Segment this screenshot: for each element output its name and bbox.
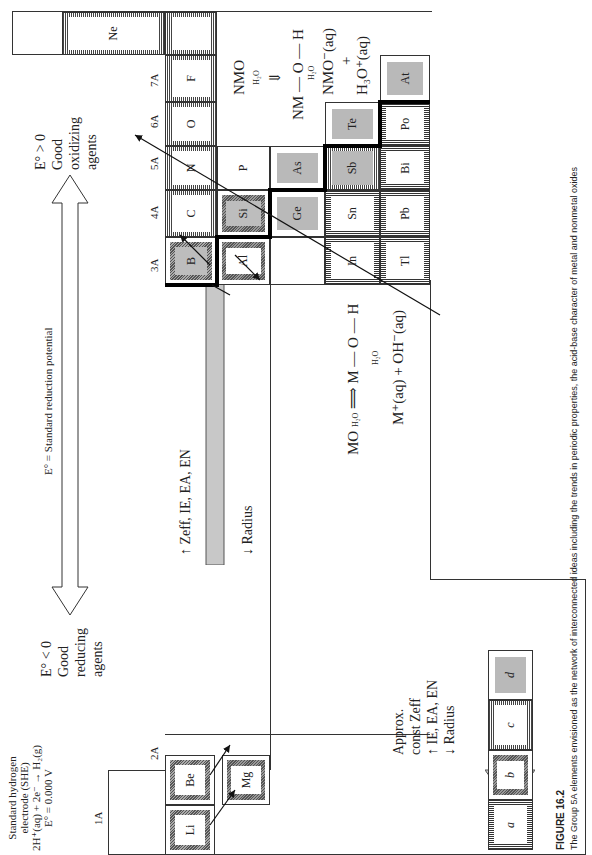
legend-c-text: c — [503, 722, 517, 727]
element-sn-symbol: Sn — [345, 207, 360, 220]
element-mg-symbol: Mg — [239, 772, 254, 789]
element-ne-symbol: Ne — [106, 27, 121, 41]
h3o-line: H₃O⁺(aq) — [354, 36, 371, 95]
element-in-symbol: In — [345, 256, 360, 266]
figure-label: FIGURE 16.2 — [555, 790, 566, 850]
figure-canvas: Standard hydrogen electrode (SHE) 2H⁺(aq… — [0, 0, 592, 855]
nm-o-h-h2o-label: H₂O — [308, 66, 317, 80]
radius-label: ↓ Radius — [441, 680, 458, 755]
element-be-symbol: Be — [183, 773, 198, 786]
legend-a: a — [488, 800, 533, 850]
legend-a-text: a — [503, 822, 517, 828]
ie-ea-en-label: ↑ IE, EA, EN — [424, 680, 441, 755]
element-o-symbol: O — [184, 120, 199, 129]
element-li-symbol: Li — [183, 825, 198, 836]
m-o-h-h2o-label: H₂O — [372, 351, 381, 365]
element-b-symbol: B — [184, 257, 199, 265]
approx-label: Approx. — [390, 680, 407, 755]
element-sb-symbol: Sb — [345, 162, 360, 175]
metal-oxide-equation-line1: MO H₂O ⟹ M — O — H — [345, 304, 362, 455]
element-f-symbol: F — [184, 75, 199, 82]
m-o-h-text: M — O — H — [345, 304, 361, 384]
element-c-symbol: C — [184, 210, 199, 218]
nm-o-h-line: NM — O — H — [290, 29, 307, 120]
nmo-ion-line: NMO⁻(aq) — [320, 28, 337, 95]
element-si-symbol: Si — [236, 209, 251, 219]
element-n-symbol: N — [184, 164, 199, 173]
element-ge-symbol: Ge — [290, 207, 305, 221]
nmo-plus: + — [338, 57, 355, 65]
element-as-symbol: As — [290, 161, 305, 174]
group-trend-label: Approx. const Zeff ↑ IE, EA, EN ↓ Radius — [390, 680, 458, 755]
figure-caption: The Group 5A elements envisioned as the … — [570, 167, 580, 850]
element-p-symbol: P — [236, 165, 251, 172]
element-pb-symbol: Pb — [398, 207, 413, 220]
nmo-h2o-label: H₂O — [248, 60, 266, 95]
element-bi-symbol: Bi — [398, 162, 413, 173]
legend-b: b — [488, 750, 533, 800]
element-po-symbol: Po — [398, 118, 413, 131]
element-tl-symbol: Tl — [398, 256, 413, 267]
legend-b-text: b — [503, 772, 517, 778]
const-zeff-label: const Zeff — [407, 680, 424, 755]
mo-text: MO — [345, 431, 361, 455]
legend-d-label: d — [503, 672, 518, 678]
element-te-symbol: Te — [345, 118, 360, 130]
element-al-symbol: Al — [236, 255, 251, 267]
legend-c-label: c — [503, 722, 518, 727]
metal-oxide-equation-line3: M⁺(aq) + OH⁻(aq) — [390, 310, 407, 425]
element-at-symbol: At — [398, 73, 413, 85]
nmo-text: NMO — [231, 60, 247, 95]
legend-d-text: d — [503, 672, 517, 678]
legend-a-label: a — [503, 822, 518, 828]
mo-h2o-label: H₂O — [351, 413, 360, 427]
legend-c: c — [488, 700, 533, 750]
legend-d: d — [488, 650, 533, 700]
legend-b-label: b — [503, 772, 518, 778]
nonmetal-oxide-equation: NMO H₂O ⇓ — [230, 60, 284, 95]
